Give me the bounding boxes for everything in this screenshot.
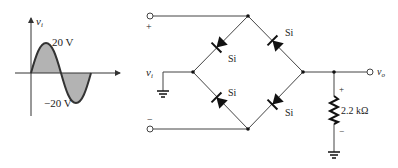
diode-bottom-left-label: Si bbox=[228, 87, 237, 98]
diode-top-right-label: Si bbox=[285, 27, 294, 38]
input-voltage-label: vi bbox=[146, 66, 153, 80]
minus-terminal-label: − bbox=[147, 114, 153, 125]
bridge-rectifier-diagram: vi 20 V −20 V bbox=[0, 0, 398, 168]
load-resistor bbox=[330, 96, 338, 124]
diode-bottom-right bbox=[268, 93, 285, 110]
plus-terminal-label: + bbox=[146, 21, 152, 32]
input-waveform: vi 20 V −20 V bbox=[15, 15, 120, 116]
trough-label: −20 V bbox=[44, 97, 72, 109]
minus-input-terminal bbox=[147, 126, 153, 132]
output-voltage-label: vo bbox=[377, 66, 385, 79]
diode-bottom-left bbox=[212, 93, 229, 110]
ground-icon-input bbox=[157, 91, 169, 97]
diode-top-left-label: Si bbox=[228, 53, 237, 64]
circuit bbox=[153, 16, 367, 152]
resistor-minus-label: − bbox=[339, 126, 344, 136]
diode-bottom-right-label: Si bbox=[285, 107, 294, 118]
resistor-plus-label: + bbox=[339, 84, 344, 94]
output-terminal bbox=[367, 69, 373, 75]
ground-icon-output bbox=[328, 152, 340, 158]
waveform-axis-label: vi bbox=[36, 15, 43, 29]
peak-label: 20 V bbox=[52, 36, 74, 48]
resistor-value-label: 2.2 kΩ bbox=[341, 105, 368, 116]
plus-input-terminal bbox=[147, 13, 153, 19]
